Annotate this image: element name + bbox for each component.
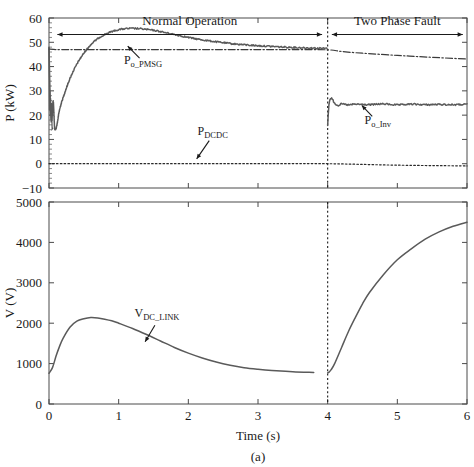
phase-span-0-head-1	[317, 32, 322, 37]
series-V_DC_LINK	[49, 318, 314, 374]
phase-label-0: Normal Operation	[142, 13, 237, 28]
annotation-base: V	[134, 306, 143, 320]
annotation-V-DC_LINK: VDC_LINK	[134, 306, 180, 322]
x-tick-label: 6	[464, 408, 471, 423]
y-axis-title-bottom: V (V)	[2, 288, 17, 318]
y-tick-label-top: 50	[29, 35, 42, 50]
series-P_o_PMSG	[328, 98, 467, 126]
panel-top: −100102030405060Po_PMSGPDCDCPo_InvNormal…	[22, 11, 467, 196]
y-tick-label-top: 30	[29, 83, 42, 98]
annotation-P-o_PMSG: Po_PMSG	[124, 53, 162, 69]
y-axis-title-top: P (kW)	[2, 84, 17, 121]
annotation-P-DCDC: PDCDC	[198, 124, 229, 140]
series-P_DCDC	[49, 164, 467, 166]
phase-span-1-head-1	[458, 32, 463, 37]
y-tick-label-top: 10	[29, 132, 42, 147]
y-tick-label-top: −10	[22, 181, 42, 196]
y-tick-label-bottom: 1000	[16, 356, 42, 371]
x-tick-label: 0	[46, 408, 53, 423]
x-axis-title: Time (s)	[236, 428, 280, 443]
x-tick-label: 2	[185, 408, 192, 423]
x-tick-label: 1	[115, 408, 122, 423]
phase-span-1-head-0	[332, 32, 337, 37]
annotation-P-o_Inv: Po_Inv	[365, 113, 392, 129]
y-tick-label-bottom: 0	[36, 397, 43, 412]
simulation-results-figure: −100102030405060Po_PMSGPDCDCPo_InvNormal…	[0, 0, 474, 467]
x-tick-label: 4	[324, 408, 331, 423]
y-tick-label-top: 40	[29, 59, 42, 74]
y-tick-label-top: 20	[29, 108, 42, 123]
plot-frame-top	[49, 18, 467, 188]
y-tick-label-bottom: 3000	[16, 275, 42, 290]
phase-span-0-head-0	[57, 32, 62, 37]
annotation-subscript: DCDC	[204, 130, 228, 140]
x-tick-label: 3	[255, 408, 262, 423]
annotation-subscript: o_PMSG	[131, 59, 163, 69]
series-P_o_PMSG	[49, 28, 327, 130]
panel-bottom: 0100020003000400050000123456VDC_LINK	[16, 195, 471, 424]
y-tick-label-bottom: 4000	[16, 235, 42, 250]
phase-label-1: Two Phase Fault	[354, 13, 441, 28]
y-tick-label-bottom: 5000	[16, 195, 42, 210]
annotation-subscript: o_Inv	[371, 119, 392, 129]
figure-container: −100102030405060Po_PMSGPDCDCPo_InvNormal…	[0, 0, 474, 467]
series-P_o_Inv	[49, 49, 467, 59]
y-tick-label-bottom: 2000	[16, 316, 42, 331]
y-tick-label-top: 0	[36, 156, 43, 171]
series-V_DC_LINK	[328, 222, 467, 373]
x-tick-label: 5	[394, 408, 401, 423]
plot-frame-bottom	[49, 202, 467, 404]
y-tick-label-top: 60	[29, 11, 42, 26]
arrow-pdcdc-head	[197, 154, 201, 159]
figure-caption: (a)	[251, 449, 265, 464]
annotation-subscript: DC_LINK	[143, 312, 180, 322]
